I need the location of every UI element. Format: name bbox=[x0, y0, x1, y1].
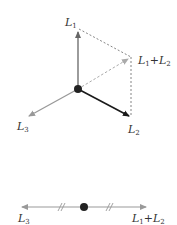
origin-dot bbox=[74, 85, 82, 93]
label-sum-bottom: L1+L2 bbox=[131, 212, 165, 225]
top-diagram: L1 L1+L2 L2 L3 bbox=[16, 16, 171, 137]
label-l1: L1 bbox=[64, 16, 77, 30]
dashed-l1-to-sum bbox=[79, 29, 131, 57]
vector-l2 bbox=[78, 89, 129, 116]
origin-dot-bottom bbox=[80, 203, 88, 211]
label-l2: L2 bbox=[127, 123, 140, 137]
vector-l3 bbox=[29, 89, 78, 116]
label-l3-bottom: L3 bbox=[17, 212, 30, 225]
vector-sum bbox=[78, 59, 128, 89]
vector-diagram: L1 L1+L2 L2 L3 L3 L1+L2 bbox=[0, 0, 177, 225]
bottom-diagram: L3 L1+L2 bbox=[17, 203, 165, 225]
label-sum: L1+L2 bbox=[137, 54, 171, 68]
label-l3: L3 bbox=[16, 120, 29, 134]
